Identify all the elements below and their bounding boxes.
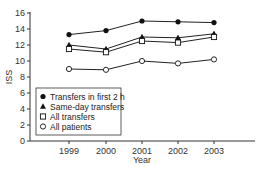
open-circle-marker-icon	[103, 67, 108, 72]
filled-circle-marker-icon	[40, 94, 45, 99]
y-tick-label: 6	[20, 88, 25, 98]
series-transfers-in-first-2-h	[66, 18, 216, 37]
filled-circle-marker-icon	[66, 32, 71, 37]
legend-entry: Transfers in first 2 h	[50, 92, 125, 102]
y-tick-label: 2	[20, 120, 25, 130]
open-circle-marker-icon	[66, 66, 71, 71]
y-tick-label: 10	[15, 56, 25, 66]
open-square-marker-icon	[40, 114, 45, 119]
chart-container: 024681012141619992000200120022003YearISS…	[0, 0, 262, 170]
legend-entry: All patients	[50, 122, 92, 132]
x-tick-label: 2000	[96, 146, 116, 156]
x-axis-label: Year	[133, 155, 151, 165]
series-all-patients	[66, 57, 216, 73]
filled-circle-marker-icon	[175, 19, 180, 24]
open-square-marker-icon	[66, 46, 71, 51]
x-tick-label: 2003	[204, 146, 224, 156]
y-tick-label: 14	[15, 24, 25, 34]
open-circle-marker-icon	[40, 124, 45, 129]
open-circle-marker-icon	[139, 58, 144, 63]
filled-circle-marker-icon	[139, 18, 144, 23]
filled-circle-marker-icon	[103, 28, 108, 33]
legend: Transfers in first 2 hSame-day transfers…	[36, 88, 125, 135]
open-circle-marker-icon	[175, 61, 180, 66]
filled-circle-marker-icon	[211, 20, 216, 25]
y-tick-label: 12	[15, 40, 25, 50]
open-circle-marker-icon	[211, 57, 216, 62]
open-square-marker-icon	[175, 40, 180, 45]
line-chart: 024681012141619992000200120022003YearISS…	[0, 0, 262, 170]
x-tick-label: 2002	[168, 146, 188, 156]
y-tick-label: 0	[20, 136, 25, 146]
open-square-marker-icon	[139, 38, 144, 43]
y-tick-label: 16	[15, 8, 25, 18]
y-axis-label: ISS	[4, 70, 14, 85]
open-square-marker-icon	[103, 50, 108, 55]
open-square-marker-icon	[211, 34, 216, 39]
legend-entry: All transfers	[50, 112, 95, 122]
x-tick-label: 1999	[59, 146, 79, 156]
legend-entry: Same-day transfers	[50, 102, 124, 112]
y-tick-label: 4	[20, 104, 25, 114]
y-tick-label: 8	[20, 72, 25, 82]
